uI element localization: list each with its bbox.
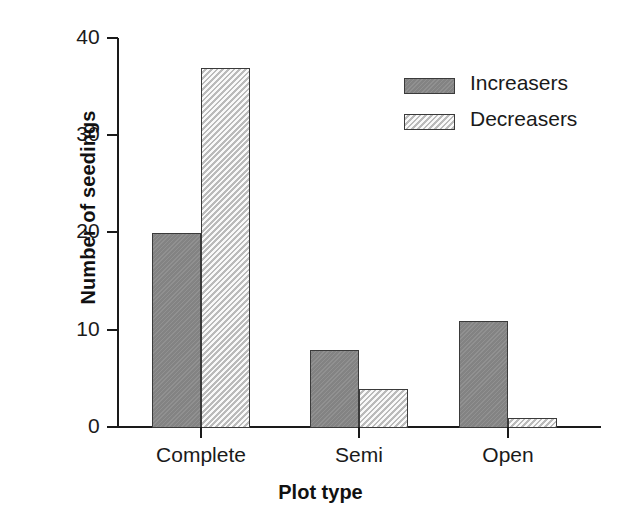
legend-label-increasers: Increasers — [470, 71, 568, 95]
legend-swatch-increasers — [404, 78, 455, 94]
x-tick-semi — [358, 427, 360, 438]
y-tick-label-0: 0 — [48, 414, 100, 438]
bar-increasers-open — [459, 321, 508, 428]
bar-decreasers-semi — [359, 389, 408, 428]
y-tick-10 — [107, 329, 118, 331]
bar-increasers-complete — [152, 233, 201, 428]
bar-decreasers-open — [508, 418, 557, 428]
y-tick-30 — [107, 134, 118, 136]
y-tick-0 — [107, 426, 118, 428]
x-tick-label-semi: Semi — [279, 443, 439, 467]
x-tick-open — [507, 427, 509, 438]
x-tick-complete — [200, 427, 202, 438]
y-tick-label-40: 40 — [48, 25, 100, 49]
x-axis-title: Plot type — [0, 481, 641, 504]
legend-label-decreasers: Decreasers — [470, 107, 577, 131]
y-axis-line — [117, 38, 119, 428]
bar-decreasers-complete — [201, 68, 250, 428]
y-tick-20 — [107, 231, 118, 233]
y-tick-40 — [107, 37, 118, 39]
chart-figure: 40 30 20 10 0 Number of seedings Complet… — [0, 0, 641, 523]
legend-swatch-decreasers — [404, 114, 455, 130]
y-axis-title: Number of seedings — [77, 58, 100, 358]
x-tick-label-complete: Complete — [121, 443, 281, 467]
bar-increasers-semi — [310, 350, 359, 428]
x-tick-label-open: Open — [428, 443, 588, 467]
